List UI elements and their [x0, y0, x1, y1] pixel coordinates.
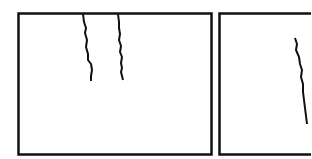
crack-line-2 [118, 14, 123, 80]
crack-line-3 [295, 38, 307, 124]
right-panel-frame [220, 14, 312, 155]
crack-diagram [0, 0, 311, 159]
left-panel-frame [19, 14, 212, 155]
crack-line-1 [83, 14, 92, 81]
